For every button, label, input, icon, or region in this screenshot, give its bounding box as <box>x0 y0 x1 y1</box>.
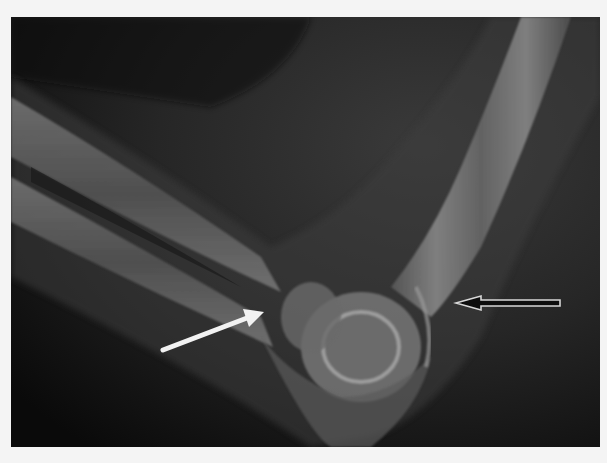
elbow-radiograph <box>11 17 600 447</box>
xray-image <box>11 17 600 447</box>
